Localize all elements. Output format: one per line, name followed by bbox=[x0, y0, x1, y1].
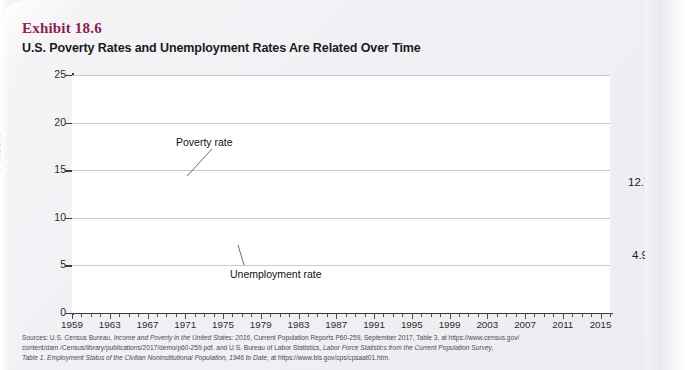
poverty-end-value: 12.7% bbox=[628, 176, 661, 188]
y-tick-label: 15 bbox=[26, 163, 66, 175]
x-tick-label: 2011 bbox=[543, 319, 583, 330]
x-tick-mark bbox=[327, 313, 328, 317]
x-tick-mark bbox=[251, 313, 252, 317]
x-tick-mark bbox=[138, 313, 139, 317]
x-tick-mark bbox=[516, 313, 517, 317]
x-tick-label: 2003 bbox=[467, 319, 507, 330]
x-tick-mark bbox=[289, 313, 290, 317]
x-tick-label: 1987 bbox=[316, 319, 356, 330]
x-tick-mark bbox=[317, 313, 318, 317]
x-tick-label: 1995 bbox=[392, 319, 432, 330]
x-tick-mark bbox=[497, 313, 498, 317]
y-tick-label: 0 bbox=[26, 306, 66, 318]
y-tick-mark bbox=[65, 313, 72, 314]
x-tick-mark bbox=[591, 313, 592, 317]
x-tick-label: 2015 bbox=[581, 319, 621, 330]
x-tick-label: 1959 bbox=[52, 319, 92, 330]
x-tick-label: 1983 bbox=[279, 319, 319, 330]
x-tick-mark bbox=[421, 313, 422, 317]
y-tick-mark bbox=[65, 75, 72, 76]
x-tick-mark bbox=[346, 313, 347, 317]
x-tick-mark bbox=[440, 313, 441, 317]
x-tick-label: 1967 bbox=[128, 319, 168, 330]
x-tick-mark bbox=[195, 313, 196, 317]
x-tick-mark bbox=[204, 313, 205, 317]
x-tick-mark bbox=[355, 313, 356, 317]
x-tick-mark bbox=[582, 313, 583, 317]
x-tick-mark bbox=[365, 313, 366, 317]
x-tick-mark bbox=[280, 313, 281, 317]
x-tick-mark bbox=[610, 313, 611, 317]
x-tick-mark bbox=[478, 313, 479, 317]
x-tick-mark bbox=[119, 313, 120, 317]
x-tick-label: 1991 bbox=[354, 319, 394, 330]
x-tick-mark bbox=[214, 313, 215, 317]
unemployment-leader-line bbox=[238, 245, 244, 265]
poverty-leader-line bbox=[187, 149, 212, 176]
x-tick-label: 1963 bbox=[90, 319, 130, 330]
x-tick-mark bbox=[176, 313, 177, 317]
unemployment-rate-annotation: Unemployment rate bbox=[230, 268, 322, 280]
x-tick-label: 2007 bbox=[505, 319, 545, 330]
x-tick-mark bbox=[572, 313, 573, 317]
x-tick-mark bbox=[157, 313, 158, 317]
x-tick-mark bbox=[431, 313, 432, 317]
x-tick-mark bbox=[242, 313, 243, 317]
x-tick-mark bbox=[544, 313, 545, 317]
y-axis-label: Percent bbox=[0, 134, 2, 170]
exhibit-number: Exhibit 18.6 bbox=[22, 20, 102, 37]
unemployment-end-value: 4.9% bbox=[632, 249, 658, 261]
x-tick-mark bbox=[468, 313, 469, 317]
exhibit-page: Exhibit 18.6 U.S. Poverty Rates and Unem… bbox=[0, 0, 685, 370]
x-tick-label: 1975 bbox=[203, 319, 243, 330]
x-tick-mark bbox=[534, 313, 535, 317]
x-tick-mark bbox=[232, 313, 233, 317]
y-tick-label: 10 bbox=[26, 211, 66, 223]
y-tick-mark bbox=[65, 265, 72, 266]
x-tick-label: 1999 bbox=[430, 319, 470, 330]
y-tick-label: 5 bbox=[26, 258, 66, 270]
x-tick-label: 1979 bbox=[241, 319, 281, 330]
x-tick-mark bbox=[91, 313, 92, 317]
x-tick-mark bbox=[393, 313, 394, 317]
x-tick-label: 1971 bbox=[165, 319, 205, 330]
x-tick-mark bbox=[81, 313, 82, 317]
x-tick-mark bbox=[553, 313, 554, 317]
x-tick-mark bbox=[100, 313, 101, 317]
leader-lines bbox=[72, 75, 610, 313]
y-tick-label: 20 bbox=[26, 116, 66, 128]
sources-note: Sources: U.S. Census Bureau, Income and … bbox=[22, 333, 670, 364]
x-tick-mark bbox=[129, 313, 130, 317]
x-tick-mark bbox=[459, 313, 460, 317]
poverty-rate-annotation: Poverty rate bbox=[176, 136, 233, 148]
y-tick-mark bbox=[65, 123, 72, 124]
x-tick-mark bbox=[166, 313, 167, 317]
page-title: U.S. Poverty Rates and Unemployment Rate… bbox=[22, 41, 421, 55]
x-tick-mark bbox=[402, 313, 403, 317]
y-tick-mark bbox=[65, 218, 72, 219]
plot-area bbox=[72, 75, 610, 313]
x-tick-mark bbox=[308, 313, 309, 317]
y-tick-label: 25 bbox=[26, 68, 66, 80]
x-tick-mark bbox=[270, 313, 271, 317]
y-tick-mark bbox=[65, 170, 72, 171]
x-tick-mark bbox=[506, 313, 507, 317]
x-tick-mark bbox=[383, 313, 384, 317]
